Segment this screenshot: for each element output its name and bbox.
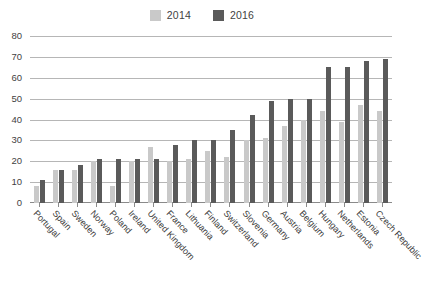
x-label-cell: Germany — [259, 207, 278, 287]
x-axis-label-czech-republic: Czech Republic — [374, 209, 424, 261]
x-label-cell: Czech Republic — [373, 207, 392, 287]
bar-2016 — [307, 99, 312, 203]
bar-group — [201, 36, 220, 203]
bar-group — [220, 36, 239, 203]
bar-2014 — [282, 126, 287, 203]
x-label-cell: Netherlands — [335, 207, 354, 287]
legend-swatch-2014 — [150, 10, 161, 21]
x-label-cell: Austria — [278, 207, 297, 287]
bar-2016 — [116, 159, 121, 203]
bar-2016 — [345, 67, 350, 203]
bar-2014 — [301, 120, 306, 204]
x-label-cell: Lithuania — [182, 207, 201, 287]
x-label-cell: France — [163, 207, 182, 287]
bars-layer — [30, 36, 392, 203]
bar-2014 — [205, 151, 210, 203]
bar-group — [125, 36, 144, 203]
bar-2014 — [320, 111, 325, 203]
bar-2014 — [358, 105, 363, 203]
bar-group — [278, 36, 297, 203]
bar-2016 — [230, 130, 235, 203]
bar-2016 — [135, 159, 140, 203]
bar-group — [182, 36, 201, 203]
bar-2014 — [34, 186, 39, 203]
bar-group — [144, 36, 163, 203]
bar-group — [106, 36, 125, 203]
bar-2016 — [192, 140, 197, 203]
bar-2014 — [263, 138, 268, 203]
bar-2014 — [91, 161, 96, 203]
bar-2016 — [326, 67, 331, 203]
bar-2016 — [288, 99, 293, 203]
x-label-cell: Spain — [49, 207, 68, 287]
bar-2014 — [72, 170, 77, 203]
x-label-cell: Belgium — [297, 207, 316, 287]
bar-2016 — [250, 115, 255, 203]
bar-2014 — [377, 111, 382, 203]
y-tick-label: 50 — [11, 94, 22, 104]
bar-2014 — [244, 140, 249, 203]
bar-2014 — [148, 147, 153, 203]
x-label-cell: United Kingdom — [144, 207, 163, 287]
y-axis: 80706050403020100 — [0, 36, 26, 203]
bar-2014 — [110, 186, 115, 203]
bar-2014 — [129, 161, 134, 203]
bar-2014 — [339, 122, 344, 203]
bar-2016 — [59, 170, 64, 203]
bar-2016 — [40, 180, 45, 203]
bar-2014 — [224, 157, 229, 203]
bar-group — [316, 36, 335, 203]
bar-group — [259, 36, 278, 203]
x-label-cell: Estonia — [354, 207, 373, 287]
bar-group — [163, 36, 182, 203]
x-axis-labels: PortugalSpainSwedenNorwayPolandIrelandUn… — [30, 207, 392, 287]
bar-2016 — [383, 59, 388, 203]
bar-2016 — [173, 145, 178, 203]
x-label-cell: Ireland — [125, 207, 144, 287]
bar-2014 — [186, 159, 191, 203]
y-tick-label: 20 — [11, 157, 22, 167]
y-tick-label: 70 — [11, 52, 22, 62]
bar-2016 — [97, 159, 102, 203]
y-tick-label: 60 — [11, 73, 22, 83]
x-label-cell: Poland — [106, 207, 125, 287]
x-label-cell: Norway — [87, 207, 106, 287]
x-label-cell: Finland — [201, 207, 220, 287]
bar-group — [68, 36, 87, 203]
bar-2016 — [211, 140, 216, 203]
bar-group — [30, 36, 49, 203]
x-label-cell: Switzerland — [220, 207, 239, 287]
bar-group — [49, 36, 68, 203]
legend-item-2014: 2014 — [150, 10, 191, 21]
x-label-cell: Hungary — [316, 207, 335, 287]
x-label-cell: Portugal — [30, 207, 49, 287]
y-tick-label: 30 — [11, 136, 22, 146]
bar-2014 — [167, 161, 172, 203]
bar-group — [354, 36, 373, 203]
y-tick-label: 80 — [11, 31, 22, 41]
bar-2016 — [364, 61, 369, 203]
bar-2016 — [78, 165, 83, 203]
bar-group — [240, 36, 259, 203]
bar-group — [335, 36, 354, 203]
x-label-cell: Slovenia — [240, 207, 259, 287]
legend-label-2016: 2016 — [230, 10, 254, 21]
bar-2014 — [53, 170, 58, 203]
legend-label-2014: 2014 — [167, 10, 191, 21]
bar-2016 — [269, 101, 274, 203]
bar-2016 — [154, 159, 159, 203]
legend-swatch-2016 — [213, 10, 224, 21]
bar-group — [297, 36, 316, 203]
x-label-cell: Sweden — [68, 207, 87, 287]
y-tick-label: 10 — [11, 177, 22, 187]
bar-group — [87, 36, 106, 203]
legend-item-2016: 2016 — [213, 10, 254, 21]
y-tick-label: 40 — [11, 115, 22, 125]
bar-group — [373, 36, 392, 203]
y-tick-label: 0 — [17, 198, 22, 208]
chart-legend: 2014 2016 — [0, 6, 404, 24]
